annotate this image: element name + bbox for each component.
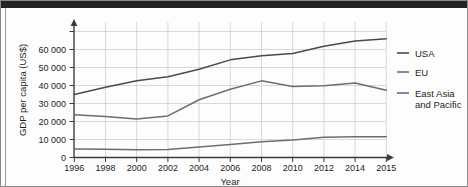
x-tick-label: 1998 [95,163,115,173]
legend-label-east-asia-line1: East Asia [415,88,455,99]
x-axis [74,154,394,162]
y-tick-label: 30 000 [38,99,66,109]
x-tick-label: 2012 [314,163,334,173]
x-tick-label: 2002 [158,163,178,173]
x-tick-label: 1996 [64,163,84,173]
x-tick-labels: 1996 1998 2000 2002 2004 2006 2008 2010 … [64,163,396,173]
y-tick-label: 10 000 [38,135,66,145]
x-tick-label: 2015 [376,163,396,173]
top-dark-bar [1,1,468,8]
legend-label-eu: EU [415,67,428,78]
legend: USA EU East Asia and Pacific [397,48,462,110]
x-axis-title: Year [220,176,239,187]
legend-label-east-asia-line2: and Pacific [415,99,462,110]
x-tick-label: 2000 [127,163,147,173]
y-tick-labels: 0 10 000 20 000 30 000 40 000 50 000 60 … [38,45,66,163]
y-tick-label: 40 000 [38,81,66,91]
x-tick-label: 2008 [251,163,271,173]
x-tick-label: 2004 [189,163,209,173]
y-tick-label: 20 000 [38,117,66,127]
chart-figure-frame: 0 10 000 20 000 30 000 40 000 50 000 60 … [0,0,468,187]
y-tick-label: 50 000 [38,63,66,73]
y-tick-label: 0 [61,153,66,163]
line-chart: 0 10 000 20 000 30 000 40 000 50 000 60 … [1,8,468,187]
y-tick-label: 60 000 [38,45,66,55]
x-tick-label: 2006 [220,163,240,173]
y-axis-title: GDP per capita (US$) [17,44,28,136]
legend-label-usa: USA [415,48,435,59]
y-axis [70,19,78,158]
x-tick-label: 2014 [345,163,365,173]
x-tick-label: 2010 [283,163,303,173]
chart-svg: 0 10 000 20 000 30 000 40 000 50 000 60 … [1,8,468,187]
